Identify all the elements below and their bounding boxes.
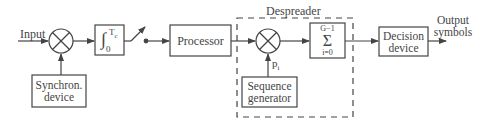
output-line1: Output <box>428 14 478 26</box>
despreader-label: Despreader <box>266 5 321 17</box>
multiplier-1-icon <box>49 29 73 53</box>
integral-lower-limit: 0 <box>106 45 111 54</box>
sum-lower-limit: i=0 <box>310 49 345 57</box>
sum-symbol: Σ <box>310 33 345 49</box>
synchron-line2: device <box>32 91 86 103</box>
input-label: Input <box>20 28 45 40</box>
block-diagram: Input Synchron. device ∫ Tc 0 Processor … <box>0 0 487 124</box>
synchron-line1: Synchron. <box>32 79 86 91</box>
decision-line2: device <box>379 42 428 54</box>
synchron-label: Synchron. device <box>32 79 86 103</box>
seqgen-line2: generator <box>242 92 297 104</box>
integral-upper-limit: Tc <box>109 28 118 40</box>
decision-line1: Decision <box>379 30 428 42</box>
processor-label: Processor <box>170 35 231 47</box>
output-line2: symbols <box>428 26 478 38</box>
pi-label: pi <box>272 58 279 72</box>
decision-label: Decision device <box>379 30 428 54</box>
switch-icon <box>124 27 148 43</box>
multiplier-2-icon <box>256 29 280 53</box>
seqgen-line1: Sequence <box>242 80 297 92</box>
output-label: Output symbols <box>428 14 478 38</box>
sequence-generator-label: Sequence generator <box>242 80 297 104</box>
